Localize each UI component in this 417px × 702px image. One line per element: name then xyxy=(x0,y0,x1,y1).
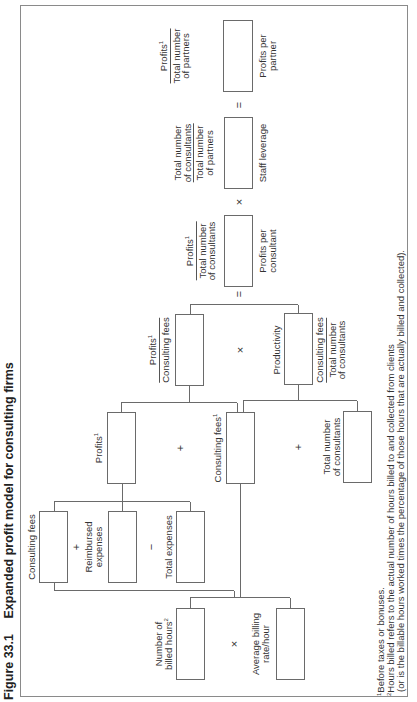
connector-line xyxy=(190,502,191,511)
footnote-2-continued: (or is the billable hours worked times t… xyxy=(396,250,406,692)
consulting-fees-calc-label: Consulting fees1 xyxy=(213,414,223,483)
plus-operator: + xyxy=(71,544,82,550)
reimbursed-expenses-box xyxy=(108,511,137,583)
profits-per-consultant-box xyxy=(224,215,253,287)
margin-formula: Profits1 Consulting fees xyxy=(148,317,170,382)
staff-leverage-box xyxy=(224,117,253,189)
connector-line xyxy=(190,305,191,314)
margin-box xyxy=(175,314,204,386)
productivity-formula: Consulting fees Total numberof consultan… xyxy=(315,317,347,382)
connector-line xyxy=(243,401,244,412)
times-operator: × xyxy=(235,347,246,353)
diagram-stage: Figure 33.1 Expanded profit model for co… xyxy=(0,0,417,702)
total-expenses-label: Total expenses xyxy=(164,515,174,578)
figure-number: Figure 33.1 xyxy=(2,634,16,700)
staff-leverage-caption: Staff leverage xyxy=(258,124,268,182)
billed-hours-box xyxy=(176,608,205,680)
equals-operator: = xyxy=(234,291,245,297)
profits-per-partner-formula: Profits1 Total numberof partners xyxy=(159,29,191,84)
consulting-fees-label: Consulting fees xyxy=(27,514,37,579)
profits-label: Profits1 xyxy=(94,433,104,463)
connector-line xyxy=(237,403,238,412)
plus-operator: + xyxy=(175,445,186,451)
connector-line xyxy=(243,400,357,401)
connector-line xyxy=(190,598,191,608)
consulting-fees-calc-box xyxy=(226,412,255,484)
connector-line xyxy=(121,402,237,403)
reimbursed-expenses-label: Reimbursed expenses xyxy=(84,521,103,572)
productivity-box xyxy=(284,313,313,385)
connector-line xyxy=(189,386,190,403)
times-operator: × xyxy=(234,199,245,205)
profits-per-consultant-caption: Profits per consultant xyxy=(258,229,277,272)
total-consultants-box xyxy=(343,411,372,483)
connector-line xyxy=(190,597,290,598)
billing-rate-label: Average billing rate/hour xyxy=(251,613,270,675)
connector-line xyxy=(54,590,234,591)
equals-operator: = xyxy=(234,102,245,108)
connector-line xyxy=(122,502,123,511)
productivity-label: Productivity xyxy=(272,325,282,374)
figure-caption: Expanded profit model for consulting fir… xyxy=(2,362,16,618)
connector-line xyxy=(122,484,123,502)
figure-title: Figure 33.1 Expanded profit model for co… xyxy=(2,362,16,700)
profits-box xyxy=(107,412,136,484)
connector-line xyxy=(290,598,291,608)
staff-leverage-formula: Total numberof consultants Total numbero… xyxy=(173,124,214,183)
profits-per-partner-caption: Profits per partner xyxy=(258,34,277,77)
consulting-fees-box xyxy=(39,511,68,583)
connector-line xyxy=(298,305,299,313)
figure-frame xyxy=(20,5,408,697)
profits-per-consultant-formula: Profits1 Total numberof consultants xyxy=(185,222,217,281)
total-consultants-label: Total number of consultants xyxy=(322,418,341,477)
connector-line xyxy=(357,401,358,411)
billing-rate-box xyxy=(276,608,305,680)
connector-line xyxy=(54,502,55,511)
total-expenses-box xyxy=(176,511,205,583)
billed-hours-label: Number of billed hours2 xyxy=(154,618,173,670)
connector-line xyxy=(240,484,241,598)
connector-line xyxy=(190,304,298,305)
connector-line xyxy=(298,385,299,401)
profits-per-partner-box xyxy=(223,20,253,92)
plus-operator: + xyxy=(293,444,304,450)
times-operator: × xyxy=(229,641,240,647)
connector-line xyxy=(121,403,122,412)
minus-operator: − xyxy=(146,544,157,550)
